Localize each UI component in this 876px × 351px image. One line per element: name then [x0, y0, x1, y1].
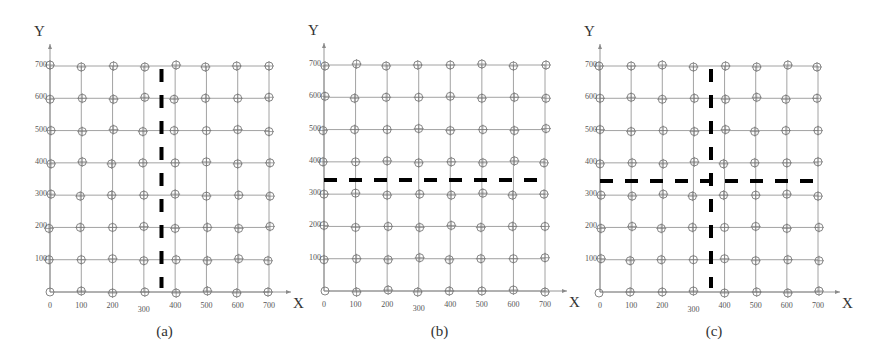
y-tick-label: 600	[35, 92, 47, 101]
y-axis-label: Y	[34, 23, 45, 39]
y-tick-label: 700	[309, 59, 321, 68]
x-tick-label: 500	[200, 301, 212, 310]
panel-c: 0100200300400500600700100200300400500600…	[584, 23, 853, 340]
x-tick-label: 0	[322, 300, 326, 309]
y-tick-label: 100	[35, 254, 47, 263]
panel-caption: (c)	[706, 323, 723, 340]
x-axis-arrow-icon	[562, 289, 567, 293]
panel-caption: (b)	[431, 323, 449, 340]
x-tick-label: 0	[48, 301, 52, 310]
x-tick-label: 600	[507, 300, 519, 309]
y-tick-label: 400	[35, 157, 47, 166]
panel-caption: (a)	[156, 323, 173, 340]
y-tick-label: 300	[585, 189, 597, 198]
y-tick-label: 700	[585, 60, 597, 69]
y-tick-label: 500	[309, 124, 321, 133]
x-tick-label: 200	[107, 301, 119, 310]
x-tick-label: 400	[169, 301, 181, 310]
x-axis-arrow-icon	[286, 290, 291, 294]
y-tick-label: 200	[585, 221, 597, 230]
x-tick-label: 300	[413, 304, 425, 313]
x-tick-label: 200	[656, 301, 668, 310]
x-tick-label: 700	[812, 301, 824, 310]
y-axis-label: Y	[308, 22, 319, 38]
x-tick-label: 400	[719, 301, 731, 310]
x-tick-label: 100	[625, 301, 637, 310]
y-tick-label: 600	[585, 92, 597, 101]
x-tick-label: 500	[750, 301, 762, 310]
cut-lines	[600, 69, 814, 288]
x-tick-label: 600	[232, 301, 244, 310]
y-tick-label: 600	[309, 91, 321, 100]
x-tick-label: 500	[476, 300, 488, 309]
y-axis-arrow-icon	[322, 43, 326, 48]
y-axis-arrow-icon	[598, 44, 602, 49]
y-tick-label: 400	[585, 157, 597, 166]
panel-a: 0100200300400500600700100200300400500600…	[34, 23, 304, 340]
figure-three-panel-grid: 0100200300400500600700100200300400500600…	[0, 0, 876, 351]
y-tick-label: 300	[309, 188, 321, 197]
x-tick-label: 100	[75, 301, 87, 310]
x-axis-label: X	[842, 295, 853, 311]
y-tick-label: 700	[35, 60, 47, 69]
y-tick-label: 500	[585, 125, 597, 134]
y-axis-arrow-icon	[48, 44, 52, 49]
grid-node-icon	[595, 289, 603, 297]
y-axis-label: Y	[584, 23, 595, 39]
y-tick-label: 200	[309, 220, 321, 229]
x-tick-label: 300	[138, 305, 150, 314]
x-axis-label: X	[569, 294, 580, 310]
y-tick-label: 300	[35, 189, 47, 198]
x-tick-label: 600	[781, 301, 793, 310]
x-axis-label: X	[293, 295, 304, 311]
x-tick-label: 400	[444, 300, 456, 309]
x-tick-label: 700	[263, 301, 275, 310]
y-tick-label: 400	[309, 156, 321, 165]
y-tick-label: 500	[35, 125, 47, 134]
axes	[48, 44, 291, 294]
y-tick-label: 100	[309, 253, 321, 262]
x-tick-label: 200	[381, 300, 393, 309]
y-tick-label: 200	[35, 221, 47, 230]
panel-b: 0100200300400500600700100200300400500600…	[308, 22, 580, 340]
x-tick-label: 700	[539, 300, 551, 309]
x-axis-arrow-icon	[835, 290, 840, 294]
y-tick-label: 100	[585, 254, 597, 263]
x-tick-label: 100	[350, 300, 362, 309]
axes	[598, 44, 840, 294]
x-tick-label: 0	[598, 301, 602, 310]
x-tick-label: 300	[687, 305, 699, 314]
